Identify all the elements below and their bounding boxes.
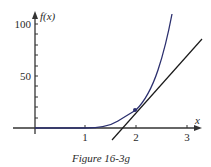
y-tick-label-50: 50 — [20, 70, 32, 82]
x-tick-label-1: 1 — [82, 131, 88, 143]
x-tick-label-3: 3 — [184, 131, 190, 143]
y-axis-arrow-icon — [32, 11, 38, 19]
y-tick-label-100: 100 — [15, 18, 32, 30]
figure-caption: Figure 16-3g — [71, 152, 130, 164]
x-axis-label: x — [194, 114, 200, 126]
x-tick-label-2: 2 — [133, 131, 139, 143]
tangent-line — [112, 39, 202, 140]
figure: f(x) 100 50 x 1 2 3 Figure 16-3g — [0, 0, 211, 167]
function-curve — [35, 14, 172, 128]
y-axis-label: f(x) — [40, 10, 56, 23]
tangent-point — [133, 108, 137, 112]
